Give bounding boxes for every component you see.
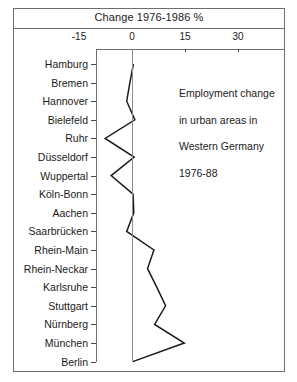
y-tick-label: Wuppertal [40, 170, 88, 182]
x-tick-label: -15 [72, 31, 86, 42]
y-tick-label: Rhein-Main [34, 244, 88, 256]
y-tick-mark [91, 343, 96, 344]
x-axis-line [96, 49, 285, 50]
y-tick-label: Düsseldorf [38, 151, 88, 163]
y-tick-label: München [45, 337, 88, 349]
y-tick-mark [91, 269, 96, 270]
y-tick-label: Ruhr [65, 132, 88, 144]
y-tick-mark [91, 101, 96, 102]
y-tick-label: Hamburg [45, 58, 88, 70]
y-tick-label: Bremen [51, 77, 88, 89]
y-tick-mark [91, 138, 96, 139]
y-tick-mark [91, 250, 96, 251]
y-tick-mark [91, 287, 96, 288]
y-tick-mark [91, 213, 96, 214]
y-tick-mark [91, 362, 96, 363]
y-tick-mark [91, 231, 96, 232]
annotation-line-4: 1976-88 [179, 167, 275, 180]
y-tick-label: Aachen [52, 207, 88, 219]
y-tick-label: Nürnberg [44, 318, 88, 330]
x-tick-label: 15 [179, 31, 190, 42]
y-tick-label: Bielefeld [48, 114, 88, 126]
x-tick-label: 30 [232, 31, 243, 42]
y-tick-mark [91, 324, 96, 325]
y-tick-mark [91, 306, 96, 307]
x-tick-label: 0 [129, 31, 135, 42]
annotation-line-1: Employment change [179, 87, 275, 100]
zero-reference-line [132, 49, 133, 362]
series-polyline [105, 64, 184, 362]
chart-annotation: Employment change in urban areas in West… [179, 74, 275, 193]
x-tick-mark [185, 49, 186, 52]
y-tick-mark [91, 64, 96, 65]
y-tick-label: Köln-Bonn [39, 188, 88, 200]
y-tick-label: Rhein-Neckar [24, 263, 88, 275]
y-tick-label: Karlsruhe [43, 281, 88, 293]
y-axis-line [96, 49, 97, 362]
y-tick-mark [91, 176, 96, 177]
y-tick-mark [91, 83, 96, 84]
annotation-line-2: in urban areas in [179, 114, 275, 127]
y-tick-mark [91, 120, 96, 121]
y-tick-label: Stuttgart [48, 300, 88, 312]
annotation-line-3: Western Germany [179, 140, 275, 153]
chart-figure: Change 1976-1986 % HamburgBremenHannover… [13, 8, 285, 372]
y-tick-label: Berlin [61, 356, 88, 368]
x-tick-mark [238, 49, 239, 52]
y-tick-mark [91, 194, 96, 195]
y-tick-label: Saarbrücken [28, 225, 88, 237]
y-tick-label: Hannover [42, 95, 88, 107]
y-tick-mark [91, 157, 96, 158]
